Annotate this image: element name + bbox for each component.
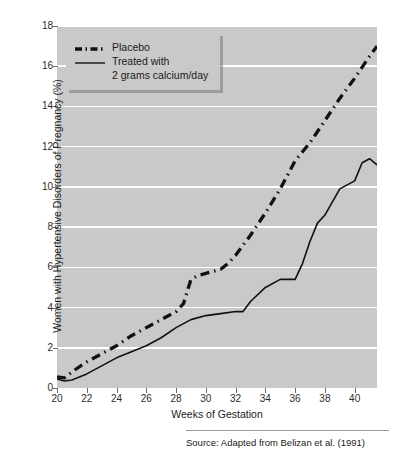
x-tick-label: 40 bbox=[340, 393, 370, 404]
y-tick-label: 6 bbox=[23, 262, 53, 272]
x-tick-mark bbox=[236, 388, 237, 393]
legend-item-treated: Treated with bbox=[75, 54, 208, 68]
y-axis-title: Women with Hypertensive Disorders of Pre… bbox=[51, 56, 63, 356]
x-tick-label: 36 bbox=[280, 393, 310, 404]
x-tick-mark bbox=[146, 388, 147, 393]
x-tick-mark bbox=[355, 388, 356, 393]
y-tick-label: 10 bbox=[23, 182, 53, 192]
y-tick-label: 18 bbox=[23, 21, 53, 31]
legend-label-placebo: Placebo bbox=[112, 40, 150, 54]
x-tick-label: 26 bbox=[131, 393, 161, 404]
y-tick-mark bbox=[53, 26, 58, 27]
source-divider bbox=[186, 430, 389, 431]
series-line-placebo bbox=[57, 46, 377, 378]
y-tick-label: 16 bbox=[23, 61, 53, 71]
legend-label-treated: Treated with bbox=[112, 54, 169, 68]
x-tick-mark bbox=[265, 388, 266, 393]
y-tick-label: 12 bbox=[23, 142, 53, 152]
figure: 024681012141618 Women with Hypertensive … bbox=[0, 0, 399, 462]
x-tick-label: 24 bbox=[102, 393, 132, 404]
x-tick-label: 34 bbox=[250, 393, 280, 404]
x-tick-mark bbox=[325, 388, 326, 393]
x-tick-label: 20 bbox=[42, 393, 72, 404]
x-tick-mark bbox=[295, 388, 296, 393]
y-tick-label: 4 bbox=[23, 303, 53, 313]
legend-item-placebo: Placebo bbox=[75, 40, 208, 54]
y-tick-label: 2 bbox=[23, 343, 53, 353]
x-tick-label: 32 bbox=[221, 393, 251, 404]
x-tick-mark bbox=[206, 388, 207, 393]
x-tick-mark bbox=[87, 388, 88, 393]
x-tick-mark bbox=[176, 388, 177, 393]
x-tick-mark bbox=[117, 388, 118, 393]
source-note: Source: Adapted from Belizan et al. (199… bbox=[186, 437, 396, 448]
x-axis-title: Weeks of Gestation bbox=[57, 408, 377, 420]
y-tick-label: 8 bbox=[23, 222, 53, 232]
y-tick-label: 0 bbox=[23, 383, 53, 393]
x-tick-label: 30 bbox=[191, 393, 221, 404]
series-line-treated bbox=[57, 159, 377, 381]
y-tick-label: 14 bbox=[23, 101, 53, 111]
x-tick-label: 28 bbox=[161, 393, 191, 404]
x-tick-label: 22 bbox=[72, 393, 102, 404]
legend-label-treated-sub: 2 grams calcium/day bbox=[112, 68, 208, 82]
legend-key-dash-dot-icon bbox=[75, 41, 105, 53]
legend: Placebo Treated with 2 grams calcium/day bbox=[66, 33, 220, 90]
legend-key-solid-icon bbox=[75, 55, 105, 67]
x-tick-label: 38 bbox=[310, 393, 340, 404]
x-tick-mark bbox=[57, 388, 58, 393]
